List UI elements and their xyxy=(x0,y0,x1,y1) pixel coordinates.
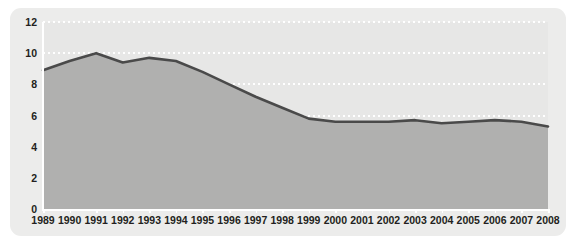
area-fill-path xyxy=(43,53,548,209)
x-axis-tick-label: 2001 xyxy=(347,215,377,226)
x-axis-tick xyxy=(282,209,284,213)
x-axis-tick xyxy=(495,209,497,213)
y-axis-tick-label: 12 xyxy=(15,17,37,28)
x-axis-tick-label: 2006 xyxy=(480,215,510,226)
x-axis-tick xyxy=(362,209,364,213)
x-axis-tick-label: 1991 xyxy=(81,215,111,226)
x-axis-tick xyxy=(176,209,178,213)
x-axis-tick-label: 2000 xyxy=(320,215,350,226)
x-axis-tick xyxy=(123,209,125,213)
x-axis-tick-label: 1993 xyxy=(134,215,164,226)
x-axis-tick xyxy=(468,209,470,213)
y-axis-tick-label: 10 xyxy=(15,48,37,59)
y-axis-tick-label: 2 xyxy=(15,173,37,184)
x-axis-tick xyxy=(309,209,311,213)
x-axis-tick-label: 2004 xyxy=(427,215,457,226)
x-axis-tick-label: 2008 xyxy=(533,215,563,226)
y-axis-tick-label: 8 xyxy=(15,79,37,90)
x-axis-tick xyxy=(335,209,337,213)
y-axis-tick-label: 0 xyxy=(15,204,37,215)
x-axis-tick xyxy=(70,209,72,213)
x-axis-tick xyxy=(149,209,151,213)
x-axis-tick xyxy=(442,209,444,213)
x-axis-tick-label: 2005 xyxy=(453,215,483,226)
y-axis-tick-labels: 024681012 xyxy=(13,0,37,244)
area-series xyxy=(43,22,548,209)
x-axis-tick-label: 1999 xyxy=(294,215,324,226)
y-axis-tick-label: 6 xyxy=(15,111,37,122)
x-axis-tick xyxy=(521,209,523,213)
y-axis-line xyxy=(42,22,44,210)
x-axis-tick xyxy=(548,209,550,213)
x-axis-tick xyxy=(389,209,391,213)
x-axis-tick xyxy=(229,209,231,213)
x-axis-tick-label: 1994 xyxy=(161,215,191,226)
x-axis-tick xyxy=(96,209,98,213)
x-axis-tick-label: 1990 xyxy=(55,215,85,226)
plot-area xyxy=(43,22,548,209)
x-axis-tick xyxy=(256,209,258,213)
x-axis-tick-label: 1996 xyxy=(214,215,244,226)
x-axis-tick-label: 1997 xyxy=(241,215,271,226)
x-axis-tick xyxy=(43,209,45,213)
x-axis-line xyxy=(42,209,549,211)
x-axis-tick-label: 2003 xyxy=(400,215,430,226)
x-axis-tick xyxy=(202,209,204,213)
x-axis-tick-label: 2002 xyxy=(374,215,404,226)
x-axis-tick-label: 1995 xyxy=(187,215,217,226)
x-axis-tick-label: 1998 xyxy=(267,215,297,226)
x-axis-tick-label: 1989 xyxy=(28,215,58,226)
x-axis-tick-label: 1992 xyxy=(108,215,138,226)
x-axis-tick xyxy=(415,209,417,213)
y-axis-tick-label: 4 xyxy=(15,142,37,153)
x-axis-tick-label: 2007 xyxy=(506,215,536,226)
